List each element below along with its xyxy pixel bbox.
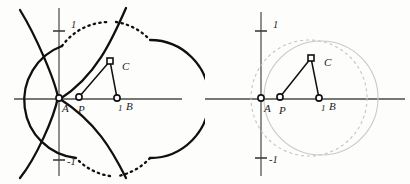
point-label-A: A	[61, 102, 69, 114]
point-label-B: B	[329, 100, 336, 112]
point-label-P: P	[278, 104, 286, 116]
panel-circle-construction: 1 -1 A P 1 B C	[205, 0, 410, 184]
point-label-A: A	[263, 102, 271, 114]
circle-arc-bottom-left-dotted	[76, 158, 110, 176]
panel-hyperbola-construction: 1 -1 A P 1 B C	[0, 0, 205, 184]
y-tick-label-minus-1: -1	[269, 154, 278, 165]
point-marker-A[interactable]	[56, 95, 62, 101]
point-label-C: C	[122, 60, 130, 72]
point-marker-A[interactable]	[258, 95, 264, 101]
y-tick-label-1: 1	[71, 19, 76, 30]
point-marker-B[interactable]	[114, 95, 120, 101]
figure-container: 1 -1 A P 1 B C	[0, 0, 410, 184]
point-label-P: P	[77, 103, 85, 115]
point-label-B: B	[126, 100, 133, 112]
circle-arc-top-right-dotted	[116, 22, 150, 40]
point-marker-C[interactable]	[107, 58, 113, 64]
x-axis-unit-label: 1	[118, 103, 123, 113]
circle-arc-top-left-dotted	[62, 22, 110, 46]
segment-B-to-C	[110, 61, 117, 98]
point-marker-P[interactable]	[76, 94, 82, 100]
point-label-C: C	[324, 56, 332, 68]
x-axis-unit-label: 1	[321, 103, 326, 113]
point-marker-C[interactable]	[308, 55, 314, 61]
y-tick-label-1: 1	[273, 19, 278, 30]
point-marker-B[interactable]	[316, 95, 322, 101]
segment-P-to-C	[280, 58, 311, 97]
point-marker-P[interactable]	[277, 94, 283, 100]
segment-B-to-C	[311, 58, 319, 98]
